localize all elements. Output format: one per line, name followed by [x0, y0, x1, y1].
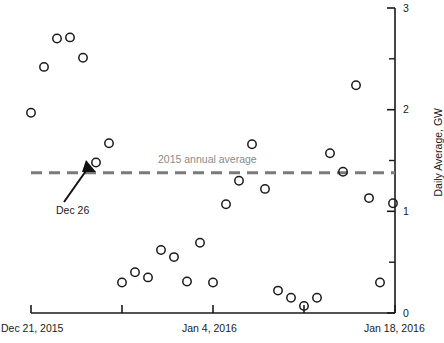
data-point: [326, 149, 334, 157]
y-tick-label-0: 0: [403, 307, 409, 319]
data-point: [53, 34, 61, 42]
data-point: [131, 268, 139, 276]
data-point: [40, 63, 48, 71]
data-point: [118, 278, 126, 286]
data-point: [209, 278, 217, 286]
data-point: [196, 239, 204, 247]
data-point: [365, 194, 373, 202]
data-point: [261, 185, 269, 193]
data-point: [352, 81, 360, 89]
reference-line-label: 2015 annual average: [158, 153, 257, 165]
x-axis-ticks: [31, 305, 395, 313]
data-point: [144, 273, 152, 281]
dec26-annotation-label: Dec 26: [56, 204, 89, 216]
data-point: [235, 177, 243, 185]
y-tick-label-1: 1: [403, 205, 409, 217]
y-axis-minor-ticks: [389, 59, 395, 262]
data-point: [222, 200, 230, 208]
data-point: [105, 139, 113, 147]
data-point: [183, 277, 191, 285]
data-point: [27, 109, 35, 117]
y-tick-label-3: 3: [403, 2, 409, 14]
data-point: [287, 294, 295, 302]
x-tick-label-end: Jan 18, 2016: [364, 322, 425, 334]
data-point: [274, 286, 282, 294]
data-point: [313, 294, 321, 302]
dec26-arrow-icon: [64, 160, 96, 202]
data-point: [157, 246, 165, 254]
data-point: [170, 253, 178, 261]
data-point: [376, 278, 384, 286]
y-axis-title: Daily Average, GW: [432, 108, 444, 197]
y-tick-label-2: 2: [403, 103, 409, 115]
data-point: [66, 33, 74, 41]
x-tick-label-start: Dec 21, 2015: [1, 322, 63, 334]
data-point: [248, 140, 256, 148]
data-point: [389, 199, 397, 207]
x-tick-label-middle: Jan 4, 2016: [182, 322, 237, 334]
data-point: [79, 54, 87, 62]
data-point: [92, 158, 100, 166]
